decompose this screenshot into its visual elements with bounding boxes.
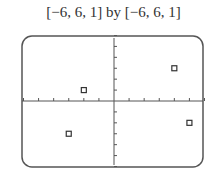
calculator-screen — [0, 0, 205, 172]
square-marker-icon — [187, 120, 192, 125]
square-marker-icon — [172, 66, 177, 71]
square-marker-icon — [81, 88, 86, 93]
axes — [22, 36, 205, 167]
square-marker-icon — [66, 131, 71, 136]
